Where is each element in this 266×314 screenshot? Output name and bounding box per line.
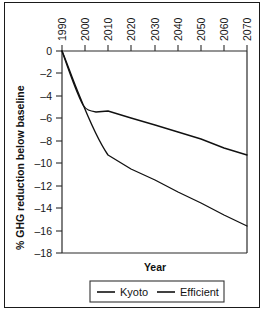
y-tick-label: –4 xyxy=(40,90,52,102)
x-tick-label: 2010 xyxy=(102,17,114,41)
x-tick-marks xyxy=(62,45,247,51)
x-tick-labels: 1990 2000 2010 2020 2030 2040 2050 2060 … xyxy=(56,17,253,41)
y-tick-label: –12 xyxy=(34,180,52,192)
x-tick-label: 1990 xyxy=(56,17,68,41)
y-tick-label: –2 xyxy=(40,67,52,79)
y-tick-label: –10 xyxy=(34,157,52,169)
x-tick-label: 2070 xyxy=(241,17,253,41)
legend-label-kyoto: Kyoto xyxy=(120,286,148,298)
chart-legend: Kyoto Efficient xyxy=(90,281,224,302)
y-tick-label: –6 xyxy=(40,112,52,124)
plot-frame xyxy=(62,51,247,253)
x-tick-label: 2020 xyxy=(125,17,137,41)
y-tick-label: –14 xyxy=(34,202,52,214)
y-tick-label: –16 xyxy=(34,225,52,237)
x-tick-label: 2000 xyxy=(79,17,91,41)
y-tick-labels: 0 –2 –4 –6 –8 –10 –12 –14 –16 –18 xyxy=(34,45,52,259)
series-line-kyoto xyxy=(62,51,247,226)
legend-label-efficient: Efficient xyxy=(180,286,219,298)
x-tick-label: 2060 xyxy=(218,17,230,41)
x-axis-title: Year xyxy=(144,261,166,273)
x-tick-label: 2040 xyxy=(172,17,184,41)
line-chart: 1990 2000 2010 2020 2030 2040 2050 2060 … xyxy=(0,0,266,314)
y-tick-label: –18 xyxy=(34,247,52,259)
figure-container: 1990 2000 2010 2020 2030 2040 2050 2060 … xyxy=(0,0,266,314)
y-tick-label: 0 xyxy=(46,45,52,57)
y-tick-marks xyxy=(56,51,62,253)
x-tick-label: 2050 xyxy=(195,17,207,41)
y-axis-title: % GHG reduction below baseline xyxy=(14,85,26,250)
y-tick-label: –8 xyxy=(40,135,52,147)
series-line-efficient xyxy=(62,51,247,155)
x-tick-label: 2030 xyxy=(149,17,161,41)
